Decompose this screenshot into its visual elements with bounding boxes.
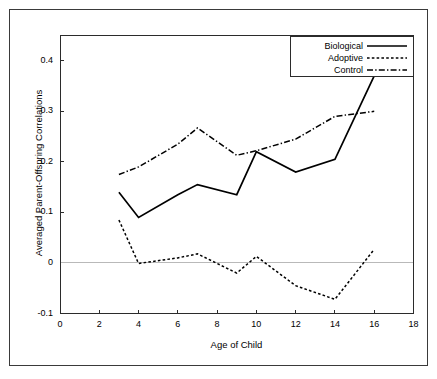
legend-line-dashdot-icon: [366, 64, 408, 76]
x-tick-label: 0: [40, 320, 80, 329]
x-tick-label: 14: [315, 320, 355, 329]
legend-entry-biological: Biological: [291, 40, 411, 52]
legend-label-adoptive: Adoptive: [328, 52, 363, 64]
legend-entry-control: Control: [291, 64, 411, 76]
x-tick-label: 6: [158, 320, 198, 329]
x-axis-title: Age of Child: [60, 340, 413, 350]
legend-line-dotted-icon: [366, 52, 408, 64]
axis-ticks: [60, 61, 414, 314]
series-line-biological: [119, 76, 374, 218]
legend-label-biological: Biological: [324, 40, 363, 52]
axis-lines: [60, 36, 414, 314]
x-tick-label: 10: [236, 320, 276, 329]
y-tick-label: -0.1: [12, 309, 53, 318]
x-tick-label: 8: [197, 320, 237, 329]
x-tick-label: 16: [354, 320, 394, 329]
figure-canvas: -0.100.10.20.30.4 024681012141618 Age of…: [0, 0, 437, 379]
legend-box: Biological Adoptive Control: [290, 36, 414, 77]
y-axis-title: Averaged Parent-Offspring Correlations: [34, 58, 44, 288]
y-tick-label: 0: [12, 258, 53, 267]
x-tick-label: 12: [276, 320, 316, 329]
x-tick-label: 4: [119, 320, 159, 329]
legend-line-solid-icon: [366, 40, 408, 52]
data-series-group: [119, 76, 374, 299]
y-tick-label: 0.4: [12, 56, 53, 65]
x-tick-label: 18: [394, 320, 434, 329]
series-line-adoptive: [119, 220, 374, 299]
legend-entry-adoptive: Adoptive: [291, 52, 411, 64]
legend-label-control: Control: [334, 64, 363, 76]
x-tick-label: 2: [79, 320, 119, 329]
series-line-control: [119, 111, 374, 174]
